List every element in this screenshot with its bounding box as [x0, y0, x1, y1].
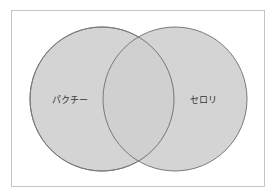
- set-circle-right: [103, 27, 247, 171]
- set-label-left: パクチー: [52, 93, 88, 106]
- set-label-right: セロリ: [190, 93, 217, 106]
- venn-diagram: [0, 0, 275, 196]
